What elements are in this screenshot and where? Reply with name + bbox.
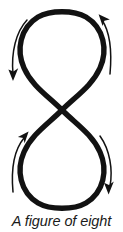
bottom-loop-path <box>20 110 104 208</box>
figure-eight-diagram: A figure of eight <box>0 0 123 232</box>
top-loop-path <box>20 12 104 110</box>
figure-eight-curve <box>20 12 104 209</box>
caption: A figure of eight <box>0 211 123 232</box>
caption-text: A figure of eight <box>12 214 111 229</box>
figure-eight-svg <box>0 0 123 212</box>
bottom-right-arrow-head <box>104 182 114 195</box>
diagram-canvas <box>0 0 123 212</box>
direction-arrows <box>8 14 113 194</box>
